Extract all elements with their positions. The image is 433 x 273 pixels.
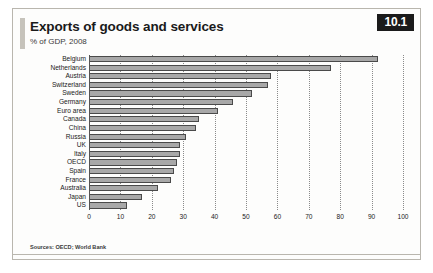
- gridline-100: [403, 55, 404, 210]
- category-label-australia: Australia: [60, 184, 86, 193]
- x-tick-label-40: 40: [211, 213, 218, 220]
- category-label-uk: UK: [77, 141, 86, 150]
- x-tick-label-90: 90: [368, 213, 375, 220]
- category-label-spain: Spain: [69, 167, 86, 176]
- source-note: Sources: OECD; World Bank: [30, 244, 106, 250]
- x-tick-label-20: 20: [148, 213, 155, 220]
- x-tick-label-0: 0: [87, 213, 91, 220]
- page-title: Exports of goods and services: [30, 19, 224, 34]
- category-label-switzerland: Switzerland: [52, 81, 86, 90]
- category-label-belgium: Belgium: [62, 55, 86, 64]
- category-label-china: China: [69, 124, 86, 133]
- category-label-netherlands: Netherlands: [50, 64, 86, 73]
- category-label-canada: Canada: [63, 115, 86, 124]
- category-label-austria: Austria: [65, 72, 86, 81]
- plot-area: [89, 55, 403, 210]
- category-label-italy: Italy: [74, 150, 86, 159]
- category-label-japan: Japan: [68, 193, 86, 202]
- x-tick-label-100: 100: [397, 213, 408, 220]
- title-spine: [20, 18, 25, 49]
- category-axis-labels: BelgiumNetherlandsAustriaSwitzerlandSwed…: [13, 55, 86, 210]
- source-divider: [13, 254, 420, 255]
- chart-figure: Exports of goods and services % of GDP, …: [12, 8, 421, 260]
- category-label-sweden: Sweden: [62, 89, 86, 98]
- x-tick-label-60: 60: [274, 213, 281, 220]
- category-label-us: US: [77, 201, 86, 210]
- chart-subtitle: % of GDP, 2008: [30, 37, 87, 46]
- plot-frame: [89, 55, 403, 210]
- category-label-russia: Russia: [66, 133, 86, 142]
- figure-number-badge: 10.1: [377, 14, 414, 31]
- x-tick-label-80: 80: [337, 213, 344, 220]
- category-label-euro-area: Euro area: [57, 107, 86, 116]
- value-axis: 0102030405060708090100: [89, 210, 403, 224]
- x-tick-label-10: 10: [117, 213, 124, 220]
- x-tick-label-70: 70: [305, 213, 312, 220]
- x-tick-label-50: 50: [242, 213, 249, 220]
- x-tick-label-30: 30: [180, 213, 187, 220]
- category-label-germany: Germany: [59, 98, 86, 107]
- category-label-france: France: [65, 176, 86, 185]
- category-label-oecd: OECD: [67, 158, 86, 167]
